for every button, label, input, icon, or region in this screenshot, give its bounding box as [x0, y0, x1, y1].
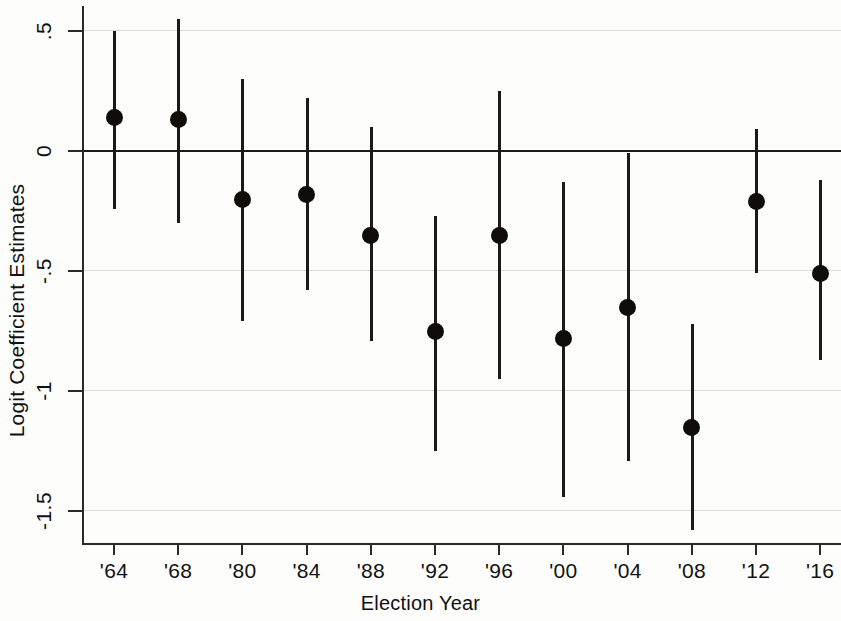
- x-axis-tick-label: '64: [79, 559, 149, 583]
- x-axis-tick-mark: [819, 545, 821, 555]
- y-axis-tick-label-text: -1.5: [32, 492, 56, 530]
- x-axis-tick-mark: [498, 545, 500, 555]
- data-point-marker: [298, 186, 315, 203]
- y-axis-tick-label-text: -1: [32, 381, 56, 401]
- x-axis-tick-label: '96: [464, 559, 534, 583]
- y-axis-tick-label-text: 0: [32, 145, 56, 157]
- data-point-marker: [170, 111, 187, 128]
- data-point-marker: [812, 265, 829, 282]
- y-axis-tick-label: .5: [22, 21, 66, 41]
- x-axis-tick-label: '12: [721, 559, 791, 583]
- y-axis-tick-mark: [68, 270, 82, 272]
- data-point-marker: [427, 323, 444, 340]
- x-axis-tick-label: '08: [657, 559, 727, 583]
- x-axis-tick-mark: [177, 545, 179, 555]
- x-axis-tick-label: '88: [336, 559, 406, 583]
- gridline: [82, 390, 841, 391]
- x-axis-tick-mark: [691, 545, 693, 555]
- x-axis-tick-label: '00: [528, 559, 598, 583]
- zero-reference-line: [82, 150, 841, 152]
- x-axis-title: Election Year: [0, 592, 841, 615]
- data-point-marker: [491, 227, 508, 244]
- y-axis-tick-label: 0: [22, 141, 66, 161]
- data-point-marker: [362, 227, 379, 244]
- y-axis-tick-mark: [68, 30, 82, 32]
- data-point-marker: [748, 193, 765, 210]
- x-axis-tick-label: '80: [207, 559, 277, 583]
- x-axis-tick-mark: [627, 545, 629, 555]
- x-axis-tick-label: '92: [400, 559, 470, 583]
- y-axis-tick-mark: [68, 390, 82, 392]
- data-point-marker: [683, 419, 700, 436]
- data-point-marker: [106, 109, 123, 126]
- x-axis-tick-mark: [306, 545, 308, 555]
- data-point-marker: [234, 191, 251, 208]
- y-axis-line: [82, 6, 84, 543]
- x-axis-tick-label: '84: [272, 559, 342, 583]
- y-axis-tick-mark: [68, 510, 82, 512]
- x-axis-tick-mark: [241, 545, 243, 555]
- x-axis-tick-mark: [562, 545, 564, 555]
- x-axis-tick-label: '68: [143, 559, 213, 583]
- chart-figure: Logit Coefficient Estimates .50-.5-1-1.5…: [0, 0, 841, 621]
- y-axis-title: Logit Coefficient Estimates: [0, 0, 34, 621]
- x-axis-tick-mark: [434, 545, 436, 555]
- y-axis-tick-label-text: .5: [32, 22, 56, 41]
- gridline: [82, 510, 841, 511]
- plot-area: [82, 6, 841, 543]
- data-point-marker: [619, 299, 636, 316]
- y-axis-tick-mark: [68, 150, 82, 152]
- x-axis-tick-mark: [755, 545, 757, 555]
- x-axis-line: [82, 543, 841, 545]
- data-point-marker: [555, 330, 572, 347]
- y-axis-tick-label-text: -.5: [32, 258, 56, 284]
- gridline: [82, 30, 841, 31]
- gridline: [82, 270, 841, 271]
- y-axis-tick-label: -1.5: [22, 501, 66, 521]
- x-axis-tick-mark: [370, 545, 372, 555]
- x-axis-tick-mark: [113, 545, 115, 555]
- y-axis-tick-label: -1: [22, 381, 66, 401]
- x-axis-tick-label: '16: [785, 559, 841, 583]
- y-axis-tick-label: -.5: [22, 261, 66, 281]
- x-axis-tick-label: '04: [593, 559, 663, 583]
